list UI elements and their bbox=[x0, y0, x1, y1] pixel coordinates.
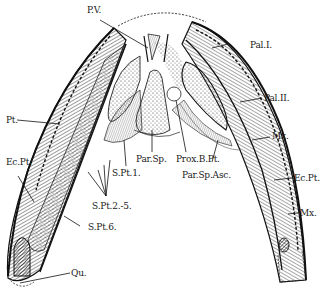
label-pt: Pt. bbox=[6, 115, 18, 125]
label-ecpt-left: Ec.Pt. bbox=[6, 157, 32, 167]
anatomical-diagram: P.V. Pal.I. Pal.II. Pt. Mx. Ec.Pt. Ec.Pt… bbox=[0, 0, 329, 294]
label-qu: Qu. bbox=[71, 268, 86, 278]
label-pv: P.V. bbox=[87, 5, 101, 15]
label-spt1: S.Pt.1. bbox=[112, 168, 140, 178]
right-quadrate bbox=[279, 238, 289, 252]
label-par-sp-asc: Par.Sp.Asc. bbox=[182, 170, 231, 180]
label-spt6: S.Pt.6. bbox=[88, 222, 116, 232]
label-spt2-5: S.Pt.2.-5. bbox=[92, 201, 131, 211]
parasphenoid bbox=[136, 70, 170, 135]
label-ecpt-right: Ec.Pt. bbox=[294, 173, 320, 183]
left-quadrate bbox=[14, 238, 30, 276]
diagram-drawing bbox=[0, 0, 329, 294]
label-mx-lower: Mx. bbox=[300, 208, 317, 218]
label-par-sp: Par.Sp. bbox=[136, 154, 167, 164]
label-pal1: Pal.I. bbox=[250, 40, 272, 50]
label-mx-upper: Mx. bbox=[272, 131, 289, 141]
label-prox-bpt: Prox.B.Pt. bbox=[176, 154, 220, 164]
basipterygoid-knob bbox=[167, 87, 181, 101]
label-pal2: Pal.II. bbox=[264, 93, 289, 103]
